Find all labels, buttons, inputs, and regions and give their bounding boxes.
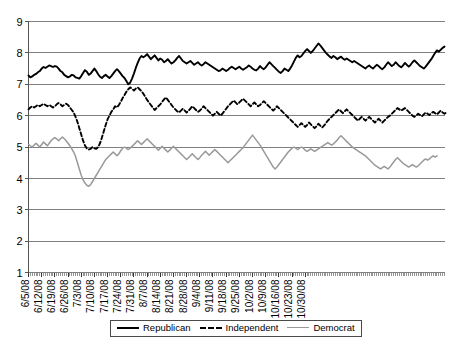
x-axis-tick-label: 6/26/08 <box>59 279 70 313</box>
x-axis-tick-label: 7/10/08 <box>85 279 96 313</box>
x-axis-tick-label: 10/9/08 <box>257 279 268 313</box>
x-axis-tick-label: 8/7/08 <box>138 279 149 307</box>
chart-figure: 1234567896/5/086/12/086/19/086/26/087/3/… <box>0 0 452 359</box>
x-axis-tick-label: 10/2/08 <box>244 279 255 313</box>
x-axis-tick-label: 7/31/08 <box>125 279 136 313</box>
x-axis-tick-label: 9/4/08 <box>191 279 202 307</box>
y-axis-tick-label: 8 <box>16 47 22 59</box>
x-axis-tick-label: 6/19/08 <box>46 279 57 313</box>
y-axis-tick-label: 7 <box>16 78 22 90</box>
x-axis-tick-label: 7/17/08 <box>99 279 110 313</box>
legend-swatch-democrat <box>287 327 309 328</box>
x-axis-tick-label: 6/12/08 <box>33 279 44 313</box>
x-axis-tick-label: 9/25/08 <box>230 279 241 313</box>
x-axis-tick-label: 10/30/08 <box>296 279 307 318</box>
y-axis-tick-label: 5 <box>16 141 22 153</box>
x-axis-tick-label: 7/24/08 <box>112 279 123 313</box>
x-axis-tick-label: 6/5/08 <box>20 279 31 307</box>
y-axis-tick-label: 9 <box>16 16 22 28</box>
chart-legend: Republican Independent Democrat <box>110 320 362 337</box>
legend-item-democrat: Democrat <box>287 323 354 333</box>
legend-item-republican: Republican <box>117 323 191 333</box>
legend-swatch-republican <box>117 327 139 329</box>
x-axis-tick-label: 9/11/08 <box>204 279 215 312</box>
y-axis-tick-label: 4 <box>16 173 22 185</box>
y-axis-tick-label: 1 <box>16 267 22 279</box>
line-chart: 1234567896/5/086/12/086/19/086/26/087/3/… <box>0 0 452 359</box>
y-axis-tick-label: 3 <box>16 204 22 216</box>
series-line-independent <box>29 87 447 149</box>
x-axis-tick-label: 8/14/08 <box>151 279 162 313</box>
x-axis-tick-label: 7/3/08 <box>72 279 83 307</box>
x-axis-tick-label: 10/16/08 <box>270 279 281 318</box>
x-axis-tick-label: 8/21/08 <box>164 279 175 313</box>
legend-swatch-independent <box>200 327 222 329</box>
x-axis-tick-label: 10/23/08 <box>283 279 294 318</box>
x-axis-tick-label: 9/18/08 <box>217 279 228 313</box>
y-axis-tick-label: 6 <box>16 110 22 122</box>
legend-item-independent: Independent <box>200 323 279 333</box>
legend-label-independent: Independent <box>226 323 279 333</box>
series-line-republican <box>29 43 445 84</box>
legend-label-republican: Republican <box>143 323 191 333</box>
x-axis-tick-label: 8/28/08 <box>178 279 189 313</box>
legend-label-democrat: Democrat <box>313 323 354 333</box>
y-axis-tick-label: 2 <box>16 235 22 247</box>
